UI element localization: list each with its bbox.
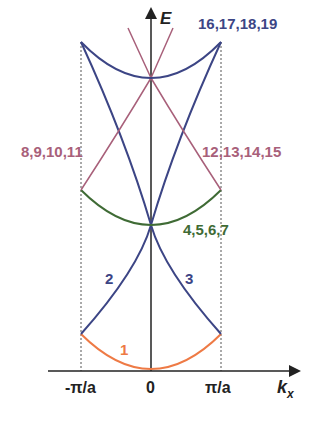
band-2-label: 2 — [105, 270, 113, 287]
band-8-11-label: 8,9,10,11 — [21, 143, 83, 160]
x-axis-label: kx — [277, 377, 295, 401]
band-8-11-curve — [81, 28, 173, 190]
x-tick-pi-a: π/a — [205, 379, 231, 396]
band-16-19-label: 16,17,18,19 — [198, 15, 277, 32]
band-structure-diagram: E 16,17,18,19 8,9,10,11 12,13,14,15 4,5,… — [0, 0, 313, 424]
band-12-15-curve — [128, 28, 221, 190]
x-tick-neg-pi-a: -π/a — [65, 379, 96, 396]
band-3-label: 3 — [185, 270, 193, 287]
band-1-label: 1 — [120, 341, 128, 358]
band-12-15-label: 12,13,14,15 — [202, 143, 281, 160]
y-axis-label: E — [160, 9, 172, 28]
x-tick-zero: 0 — [146, 379, 155, 396]
band-4-7-label: 4,5,6,7 — [183, 221, 229, 238]
